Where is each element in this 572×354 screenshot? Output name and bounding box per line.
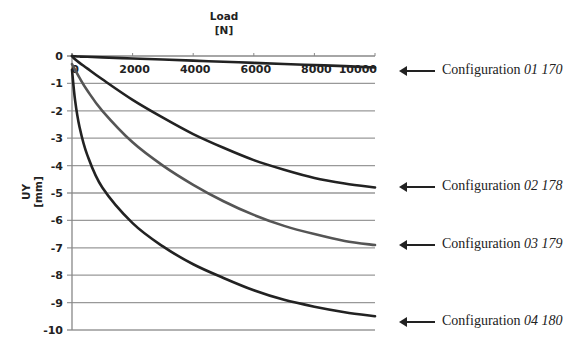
series-line-1	[72, 56, 375, 68]
annotation-label: Configuration 03 179	[442, 236, 563, 252]
x-axis-title-line1: Load	[210, 10, 239, 22]
series-line-3	[72, 64, 375, 245]
y-tick-label: 0	[55, 50, 63, 63]
gridlines	[67, 53, 375, 330]
y-tick-label: -10	[43, 324, 63, 337]
y-tick-label: -9	[51, 297, 63, 310]
arrow-left-icon	[405, 321, 435, 323]
y-tick-label: -3	[51, 132, 63, 145]
y-axis-title-line2: [mm]	[32, 176, 44, 207]
y-axis-title-line1: UY	[20, 184, 32, 201]
y-tick-label: -4	[51, 160, 64, 173]
x-axis-title-line2: [N]	[215, 24, 233, 36]
y-axis-ticks: 0-1-2-3-4-5-6-7-8-9-10	[43, 50, 63, 337]
data-series	[72, 56, 375, 316]
y-axis-title: UY [mm]	[20, 176, 44, 207]
arrow-left-icon	[405, 244, 435, 246]
annotation-label: Configuration 01 170	[442, 62, 563, 78]
annotation-label: Configuration 04 180	[442, 313, 563, 329]
x-tick-label: 4000	[180, 63, 211, 76]
annotation-label: Configuration 02 178	[442, 178, 563, 194]
y-tick-label: -5	[51, 187, 63, 200]
y-tick-label: -6	[51, 214, 64, 227]
y-tick-label: -7	[51, 242, 63, 255]
x-tick-label: 2000	[119, 63, 150, 76]
arrow-left-icon	[405, 70, 435, 72]
y-tick-label: -8	[51, 269, 63, 282]
y-tick-label: -1	[51, 77, 63, 90]
x-tick-label: 6000	[240, 63, 271, 76]
y-tick-label: -2	[51, 105, 63, 118]
line-chart: 0200040006000800010000 0-1-2-3-4-5-6-7-8…	[0, 0, 572, 354]
arrow-left-icon	[405, 186, 435, 188]
